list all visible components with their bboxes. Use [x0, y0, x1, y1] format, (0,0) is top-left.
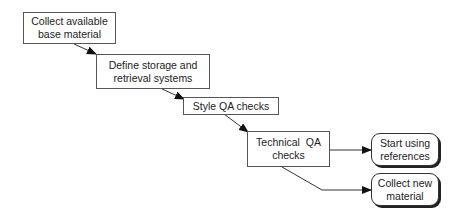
edge-n2-n3 — [162, 89, 184, 99]
node-collect-available-base-material: Collect availablebase material — [23, 12, 116, 44]
node-start-using-references: Start usingreferences — [371, 133, 439, 166]
edge-n1-n2 — [74, 44, 96, 54]
edge-n3-n4 — [224, 114, 248, 132]
node-label-line: Technical QA — [256, 136, 321, 149]
node-technical-qa-checks: Technical QAchecks — [247, 131, 330, 167]
node-label-line: Collect available — [31, 15, 107, 28]
node-label-line: Style QA checks — [193, 100, 269, 113]
node-label-line: Start using — [380, 137, 430, 150]
node-label-line: references — [380, 150, 430, 163]
node-collect-new-material: Collect newmaterial — [371, 173, 439, 206]
node-label-line: retrieval systems — [109, 72, 198, 85]
node-label-line: material — [378, 190, 432, 203]
node-define-storage-retrieval: Define storage andretrieval systems — [96, 54, 210, 89]
node-label-line: base material — [31, 28, 107, 41]
edge-n4-n6 — [282, 167, 371, 190]
node-style-qa-checks: Style QA checks — [183, 97, 279, 115]
node-label-line: checks — [256, 149, 321, 162]
node-label-line: Define storage and — [109, 59, 198, 72]
node-label-line: Collect new — [378, 177, 432, 190]
